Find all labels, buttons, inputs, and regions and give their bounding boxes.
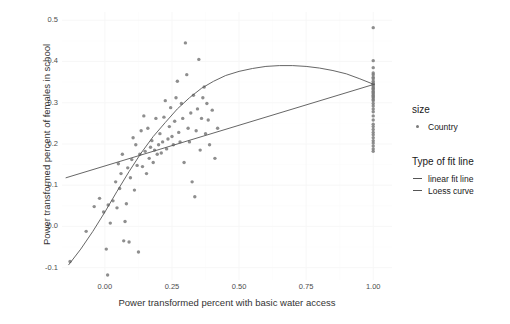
data-point: [114, 180, 117, 183]
data-point: [372, 114, 375, 117]
data-point: [148, 157, 151, 160]
data-point: [93, 205, 96, 208]
dash-marker-icon: [412, 185, 423, 196]
data-point: [158, 132, 161, 135]
data-point: [182, 161, 185, 164]
data-layer: [62, 12, 392, 280]
data-point: [129, 176, 132, 179]
data-point: [213, 157, 216, 160]
data-point: [142, 114, 145, 117]
data-point: [372, 118, 375, 121]
data-point: [372, 110, 375, 113]
data-point: [161, 140, 164, 143]
data-point: [186, 127, 189, 130]
legend-item-label: Country: [428, 122, 458, 132]
x-tick-label: 1.00: [366, 282, 381, 291]
data-point: [131, 136, 134, 139]
data-point: [162, 115, 165, 118]
data-point: [135, 164, 138, 167]
data-point: [177, 131, 180, 134]
data-point: [189, 111, 192, 114]
point-marker-icon: [412, 121, 423, 132]
data-point: [207, 118, 210, 121]
legend-size-title: size: [412, 104, 508, 116]
legend-fit-title: Type of fit line: [412, 156, 508, 168]
legend-size: size Country: [412, 104, 508, 132]
data-point: [372, 26, 375, 29]
data-point: [201, 96, 204, 99]
data-point: [106, 273, 109, 276]
x-tick-label: 0.25: [165, 282, 180, 291]
data-point: [156, 153, 159, 156]
data-point: [170, 135, 173, 138]
x-tick-label: 0.50: [232, 282, 247, 291]
data-point: [122, 239, 125, 242]
data-point: [208, 143, 211, 146]
data-point: [109, 221, 112, 224]
legend-fit: Type of fit line linear fit line Loess c…: [412, 156, 508, 196]
data-point: [146, 127, 149, 130]
legend-item-label: Loess curve: [428, 186, 474, 196]
data-point: [168, 125, 171, 128]
data-point: [176, 80, 179, 83]
legend-item-linear-fit[interactable]: linear fit line: [412, 173, 508, 184]
data-point: [190, 180, 193, 183]
data-point: [126, 166, 129, 169]
data-point: [157, 143, 160, 146]
data-point: [372, 59, 375, 62]
x-tick-label: 0.00: [98, 282, 113, 291]
legend-item-loess-curve[interactable]: Loess curve: [412, 185, 508, 196]
data-point: [372, 150, 375, 153]
data-point: [152, 161, 155, 164]
legend-item-country[interactable]: Country: [412, 121, 508, 132]
data-point: [174, 96, 177, 99]
plot-panel: [62, 12, 392, 280]
data-point: [134, 143, 137, 146]
legend-panel: size Country Type of fit line linear fit…: [412, 104, 508, 197]
data-point: [149, 146, 152, 149]
data-point: [141, 165, 144, 168]
data-point: [193, 195, 196, 198]
data-point: [169, 106, 172, 109]
data-point: [160, 151, 163, 154]
data-point: [139, 129, 142, 132]
data-point: [119, 172, 122, 175]
data-point: [143, 150, 146, 153]
data-point: [200, 117, 203, 120]
data-point: [173, 120, 176, 123]
data-point: [198, 148, 201, 151]
data-point: [185, 73, 188, 76]
linear-fit-line-path: [66, 84, 375, 178]
data-point: [194, 129, 197, 132]
data-point: [98, 197, 101, 200]
data-point: [137, 250, 140, 253]
data-point: [166, 137, 169, 140]
data-point: [123, 220, 126, 223]
data-point: [145, 172, 148, 175]
data-point: [372, 66, 375, 69]
data-point: [196, 107, 199, 110]
data-point: [211, 108, 214, 111]
data-point: [154, 117, 157, 120]
data-point: [164, 99, 167, 102]
data-point: [181, 117, 184, 120]
legend-item-label: linear fit line: [428, 174, 473, 184]
dash-marker-icon: [412, 173, 423, 184]
chart-root: 0.50.40.30.20.10.0-0.1 Power transformed…: [0, 0, 510, 324]
data-point: [105, 247, 108, 250]
x-axis-ticks: 0.000.250.500.751.00: [62, 282, 392, 294]
x-tick-label: 0.75: [299, 282, 314, 291]
data-point: [84, 230, 87, 233]
data-point: [216, 127, 219, 130]
data-point: [115, 206, 118, 209]
data-point: [184, 41, 187, 44]
data-point: [133, 188, 136, 191]
x-axis-title: Power transformed percent with basic wat…: [62, 297, 392, 308]
loess-curve-path: [69, 66, 374, 265]
data-point: [125, 202, 128, 205]
data-point: [205, 102, 208, 105]
data-point: [197, 58, 200, 61]
data-point: [127, 240, 130, 243]
data-point: [121, 153, 124, 156]
y-axis-title: Power transformed percent of females in …: [41, 15, 52, 275]
